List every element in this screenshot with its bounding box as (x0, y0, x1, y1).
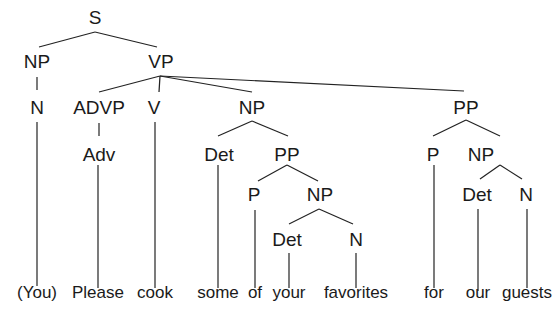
tree-node-np2: NP (239, 97, 265, 118)
tree-edge (218, 121, 252, 136)
tree-node-pp1: PP (453, 97, 478, 118)
tree-node-adv: Adv (83, 144, 116, 165)
tree-node-s: S (89, 7, 102, 28)
tree-node-n3: N (519, 184, 533, 205)
tree-edge (500, 165, 522, 179)
leaf-word-w10: guests (502, 283, 552, 302)
tree-edge (319, 209, 353, 224)
tree-nodes: SNPVPNADVPVNPPPAdvDetPPPNPPNPDetNDetN (24, 7, 533, 250)
leaf-word-w9: our (466, 283, 491, 302)
tree-node-v: V (148, 97, 161, 118)
tree-node-np3: NP (468, 144, 494, 165)
tree-edge (95, 32, 157, 47)
tree-node-n2: N (349, 229, 363, 250)
tree-node-pp2: PP (274, 144, 299, 165)
leaf-word-w5: of (248, 283, 262, 302)
tree-leaf-words: (You)Pleasecooksomeofyourfavoritesforour… (17, 283, 552, 302)
tree-edge (252, 121, 288, 136)
tree-edge (433, 120, 466, 136)
tree-node-det2: Det (272, 229, 302, 250)
tree-node-p1: P (427, 144, 440, 165)
leaf-word-w3: cook (137, 283, 173, 302)
leaf-word-w8: for (424, 283, 444, 302)
leaf-word-w6: your (272, 283, 305, 302)
tree-edge (258, 165, 287, 181)
tree-node-advp: ADVP (73, 97, 125, 118)
tree-node-p2: P (248, 184, 261, 205)
leaf-word-w2: Please (72, 283, 124, 302)
tree-node-n1: N (30, 97, 44, 118)
syntax-tree-diagram: SNPVPNADVPVNPPPAdvDetPPPNPPNPDetNDetN (Y… (0, 0, 560, 321)
tree-edge (466, 120, 500, 136)
tree-node-np4: NP (307, 184, 333, 205)
tree-node-det3: Det (462, 184, 492, 205)
tree-edge (39, 32, 95, 47)
tree-edge (480, 165, 500, 179)
tree-node-det1: Det (204, 144, 234, 165)
tree-edge (159, 76, 160, 92)
leaf-word-w1: (You) (17, 283, 57, 302)
tree-node-np1: NP (24, 51, 50, 72)
leaf-word-w4: some (197, 283, 239, 302)
tree-node-vp: VP (148, 51, 173, 72)
tree-edge (287, 165, 318, 181)
leaf-word-w7: favorites (324, 283, 388, 302)
tree-edge (99, 76, 160, 92)
tree-edge (289, 209, 319, 224)
